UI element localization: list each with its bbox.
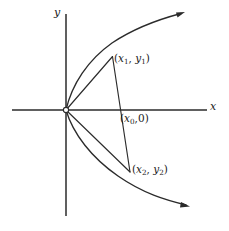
figure-canvas (0, 0, 229, 231)
p0-zero: 0 (138, 112, 145, 124)
p2-close-paren: ) (164, 163, 168, 175)
x-axis-label: x (210, 101, 216, 112)
parabola-lower-branch (66, 110, 186, 205)
p1-close-paren: ) (146, 52, 150, 64)
p0-x-sub: 0 (130, 117, 135, 126)
p1-y-sub: 1 (141, 57, 146, 66)
p1-x-sub: 1 (124, 57, 129, 66)
lower-branch-arrow-icon (180, 202, 190, 208)
p0-close-paren: ) (145, 112, 149, 124)
y-axis-label: y (54, 7, 60, 18)
parabola-figure: y x (x1, y1) (x0,0) (x2, y2) (0, 0, 229, 231)
upper-branch-arrow-icon (176, 12, 185, 18)
point-label-p2: (x2, y2) (132, 164, 168, 175)
p2-y-sub: 2 (159, 168, 164, 177)
point-label-p1: (x1, y1) (114, 53, 150, 64)
origin-vertex-marker (63, 107, 68, 112)
p2-x-sub: 2 (142, 168, 147, 177)
point-label-p0: (x0,0) (120, 113, 149, 124)
